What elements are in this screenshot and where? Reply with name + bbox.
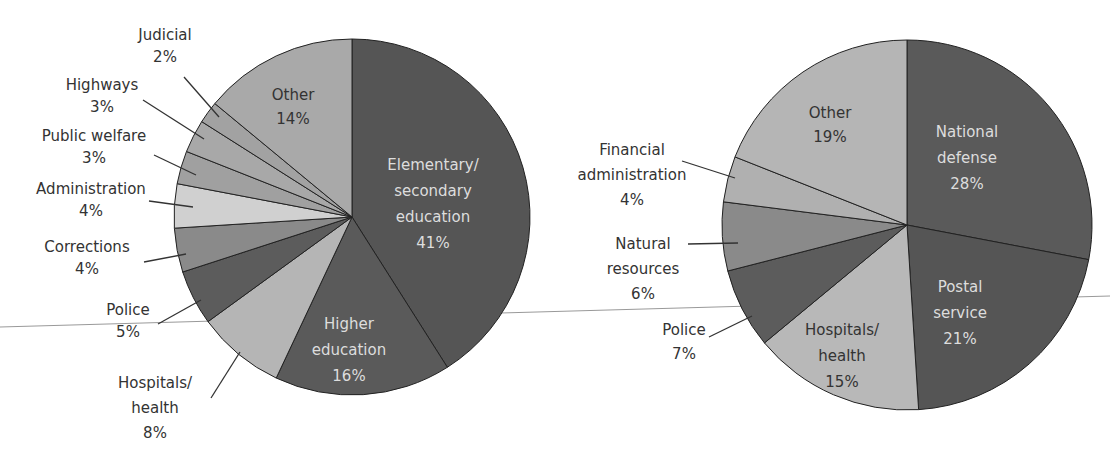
label-judicial: Judicial — [137, 26, 191, 44]
svg-text:Administration4%: Administration4% — [36, 180, 146, 220]
pie-charts: Judicial2% Highways3% Public welfare3% A… — [0, 0, 1110, 459]
leader-line — [682, 161, 735, 178]
label-hospitals: Hospitals/ — [118, 374, 193, 392]
label-higher-education: Higher — [324, 315, 375, 333]
leader-line — [143, 100, 204, 139]
label-highways: Highways — [66, 76, 139, 94]
svg-text:Financialadministration4%: Financialadministration4% — [578, 141, 687, 209]
label-police: Police — [106, 301, 150, 319]
label-other-right: Other — [809, 104, 852, 122]
label-public-welfare: Public welfare — [42, 127, 146, 145]
leader-line — [709, 316, 752, 337]
label-national-defense: National — [936, 123, 999, 141]
svg-text:Police7%: Police7% — [662, 321, 706, 363]
leader-line — [184, 77, 219, 117]
svg-text:Public welfare3%: Public welfare3% — [42, 127, 146, 167]
label-natural-resources: Natural — [615, 235, 670, 253]
chart-root: Judicial2% Highways3% Public welfare3% A… — [0, 0, 1110, 459]
label-hospitals-right: Hospitals/ — [805, 321, 880, 339]
leader-line — [158, 300, 201, 324]
label-police-right: Police — [662, 321, 706, 339]
svg-text:Hospitals/health8%: Hospitals/health8% — [118, 374, 193, 442]
pie-slice — [907, 40, 1092, 260]
svg-text:Highways3%: Highways3% — [66, 76, 139, 116]
label-postal-service: Postal — [938, 278, 983, 296]
label-financial-administration: Financial — [599, 141, 665, 159]
svg-text:Police5%: Police5% — [106, 301, 150, 341]
svg-text:Naturalresources6%: Naturalresources6% — [607, 235, 680, 303]
label-elementary-secondary: Elementary/ — [387, 156, 479, 174]
label-administration: Administration — [36, 180, 146, 198]
label-other-left: Other — [272, 86, 315, 104]
svg-text:Judicial2%: Judicial2% — [137, 26, 191, 66]
svg-text:Corrections4%: Corrections4% — [44, 238, 130, 278]
leader-line — [211, 352, 240, 398]
right-pie — [722, 40, 1092, 410]
label-corrections: Corrections — [44, 238, 130, 256]
